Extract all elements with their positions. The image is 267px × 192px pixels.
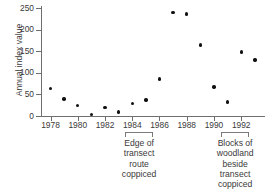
data-point (212, 85, 215, 88)
bracket-bar (125, 132, 152, 133)
bracket-cap-left (125, 132, 126, 137)
data-point (171, 11, 174, 14)
y-tick-mark (36, 51, 41, 52)
data-point (226, 100, 229, 103)
annotation-text-edge-of-transect: Edge oftransectroutecoppiced (99, 138, 179, 179)
x-axis-line (41, 116, 265, 117)
annotation-line: woodland (195, 148, 267, 158)
annotation-line: coppiced (99, 169, 179, 179)
bracket-cap-left (221, 132, 222, 137)
annotation-line: transect (99, 148, 179, 158)
data-point (158, 77, 161, 80)
data-point (253, 58, 256, 61)
data-point (240, 50, 243, 53)
bracket-cap-right (248, 132, 249, 137)
y-tick-mark (36, 94, 41, 95)
annual-index-value-scatter-chart: Annual index value 050100150200250 19781… (0, 0, 267, 192)
annotation-line: beside (195, 159, 267, 169)
annotation-line: coppiced (195, 179, 267, 189)
data-point (90, 113, 93, 116)
annotation-text-blocks-of-woodland: Blocks ofwoodlandbesidetransectcoppiced (195, 138, 267, 189)
data-point (117, 110, 120, 113)
annotation-line: Edge of (99, 138, 179, 148)
y-tick-mark (36, 73, 41, 74)
y-tick-mark (36, 8, 41, 9)
data-point (76, 104, 79, 107)
y-tick-label: 200 (0, 25, 34, 33)
data-point (131, 102, 134, 105)
y-tick-mark (36, 30, 41, 31)
data-point (103, 106, 106, 109)
x-tick-label: 1992 (221, 121, 261, 130)
y-tick-label: 50 (0, 90, 34, 98)
y-axis-line (41, 6, 42, 117)
y-tick-label: 250 (0, 4, 34, 12)
annotation-line: route (99, 159, 179, 169)
y-tick-label: 100 (0, 68, 34, 76)
bracket-bar (221, 132, 250, 133)
annotation-line: Blocks of (195, 138, 267, 148)
data-point (144, 98, 147, 101)
data-point (199, 43, 202, 46)
data-point (185, 12, 188, 15)
annotation-line: transect (195, 169, 267, 179)
y-tick-mark (36, 116, 41, 117)
annotation-bracket-edge-of-transect (125, 132, 152, 137)
bracket-cap-right (152, 132, 153, 137)
y-axis-title: Annual index value (14, 5, 24, 115)
data-point (49, 87, 52, 90)
y-tick-label: 150 (0, 47, 34, 55)
annotation-bracket-blocks-of-woodland (221, 132, 250, 137)
y-tick-label: 0 (0, 112, 34, 120)
data-point (62, 97, 65, 100)
